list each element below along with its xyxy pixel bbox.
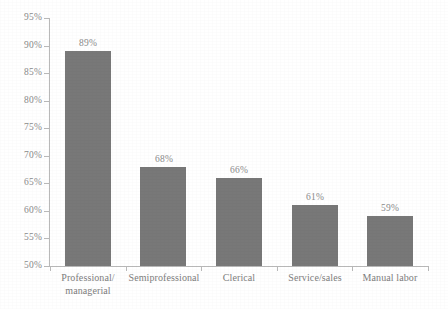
y-axis-tick: [44, 211, 50, 212]
y-axis-tick: [44, 101, 50, 102]
y-axis-tick-label-text: 55%: [24, 232, 42, 242]
x-axis-category-label-line: Professional/: [50, 272, 126, 285]
x-axis-line: [44, 266, 428, 267]
x-axis-tick: [352, 266, 353, 271]
bar-chart: 50%55%60%65%70%75%80%85%90%95% 89%68%66%…: [0, 0, 448, 309]
y-axis-tick-label: 70%: [0, 150, 42, 162]
y-axis-tick-label: 55%: [0, 232, 42, 244]
x-axis-category-label: Clerical: [201, 272, 277, 285]
x-axis-tick: [201, 266, 202, 271]
bar[interactable]: [140, 167, 186, 266]
y-axis-tick-label-text: 65%: [24, 177, 42, 187]
bar[interactable]: [65, 51, 111, 266]
y-axis-tick-label: 85%: [0, 67, 42, 79]
x-axis-category-label-line: managerial: [50, 285, 126, 298]
x-axis-category-label: Manual labor: [352, 272, 428, 285]
x-axis-category-label: Professional/managerial: [50, 272, 126, 297]
y-axis-tick-label-text: 95%: [24, 12, 42, 22]
y-axis-tick-label: 80%: [0, 95, 42, 107]
y-axis-tick-label-text: 85%: [24, 67, 42, 77]
y-axis-tick-label: 60%: [0, 205, 42, 217]
y-axis-tick: [44, 73, 50, 74]
bar-value-label: 61%: [277, 192, 353, 202]
x-axis-category-label-line: Service/sales: [277, 272, 353, 285]
x-axis-category-label: Service/sales: [277, 272, 353, 285]
y-axis-tick-label-text: 75%: [24, 122, 42, 132]
y-axis-tick: [44, 238, 50, 239]
y-axis-tick-label: 90%: [0, 40, 42, 52]
y-axis-tick-label: 50%: [0, 260, 42, 272]
y-axis-tick: [44, 156, 50, 157]
bar[interactable]: [292, 205, 338, 266]
y-axis-tick-label-text: 50%: [24, 260, 42, 270]
y-axis-line: [49, 18, 50, 267]
x-axis-tick: [126, 266, 127, 271]
x-axis-category-label: Semiprofessional: [126, 272, 202, 285]
bar-value-label: 66%: [201, 165, 277, 175]
x-axis-category-label-line: Clerical: [201, 272, 277, 285]
y-axis-tick-label-text: 80%: [24, 95, 42, 105]
y-axis-tick: [44, 18, 50, 19]
y-axis-tick: [44, 183, 50, 184]
bar[interactable]: [216, 178, 262, 266]
y-axis-tick-label: 75%: [0, 122, 42, 134]
bar-value-label: 68%: [126, 154, 202, 164]
y-axis-tick-label: 95%: [0, 12, 42, 24]
y-axis-tick-label-text: 90%: [24, 40, 42, 50]
x-axis-tick: [277, 266, 278, 271]
x-axis-category-label-line: Semiprofessional: [126, 272, 202, 285]
x-axis-category-label-line: Manual labor: [352, 272, 428, 285]
bar-value-label: 89%: [50, 38, 126, 48]
x-axis-tick: [428, 266, 429, 271]
x-axis-tick: [50, 266, 51, 271]
bar-value-label: 59%: [352, 203, 428, 213]
y-axis-tick-label: 65%: [0, 177, 42, 189]
y-axis-tick-label-text: 70%: [24, 150, 42, 160]
y-axis-tick: [44, 128, 50, 129]
bar[interactable]: [367, 216, 413, 266]
y-axis-tick-label-text: 60%: [24, 205, 42, 215]
